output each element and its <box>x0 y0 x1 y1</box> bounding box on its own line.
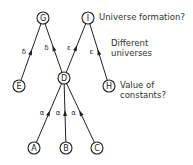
edge-label: α <box>56 109 61 117</box>
node-label: I <box>87 14 89 23</box>
annotation-value-constants-2: constants? <box>120 90 166 100</box>
edge-label: ε <box>67 44 71 52</box>
node-B: B <box>60 142 72 154</box>
annotation-different-universes-1: Different <box>111 38 148 48</box>
edge-label: δ <box>44 44 48 52</box>
arrow-icon <box>73 45 77 51</box>
arrow-icon <box>46 110 50 116</box>
arrow-icon <box>53 45 57 51</box>
arrow-icon <box>28 49 32 55</box>
nodes-group: GIEDHABC <box>13 12 115 154</box>
edge-label: ε <box>90 48 94 56</box>
arrow-icon <box>97 49 101 55</box>
node-I: I <box>82 12 94 24</box>
diagram-canvas: δδεεααα GIEDHABC Universe formation? Dif… <box>0 0 193 165</box>
node-D: D <box>58 72 70 84</box>
edge-label: α <box>71 109 76 117</box>
arrow-icon <box>79 110 83 116</box>
annotation-different-universes-2: universes <box>111 48 152 58</box>
node-A: A <box>28 142 40 154</box>
node-label: C <box>94 144 100 153</box>
node-C: C <box>91 142 103 154</box>
node-H: H <box>103 80 115 92</box>
node-label: E <box>16 82 21 91</box>
annotation-universe-formation: Universe formation? <box>99 12 185 22</box>
annotation-value-constants-1: Value of <box>120 80 154 90</box>
node-label: D <box>61 74 67 83</box>
node-label: B <box>63 144 69 153</box>
node-label: G <box>40 14 46 23</box>
node-G: G <box>37 12 49 24</box>
node-label: H <box>106 82 112 91</box>
edge-label: α <box>40 109 45 117</box>
edge-label: δ <box>22 48 26 56</box>
node-E: E <box>13 80 25 92</box>
diagram-svg: δδεεααα GIEDHABC <box>0 0 193 165</box>
arrow-icon <box>63 110 67 116</box>
node-label: A <box>31 144 37 153</box>
